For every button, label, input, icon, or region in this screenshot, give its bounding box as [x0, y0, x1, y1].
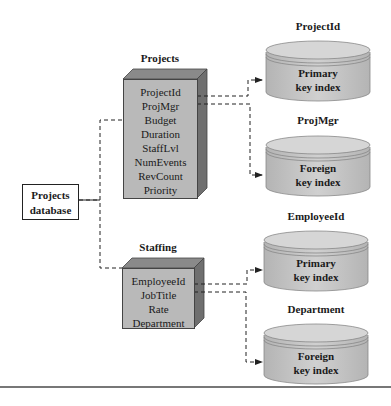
index-label-employeeid: Primary key index — [264, 256, 368, 284]
field-rate: Rate — [123, 302, 194, 316]
field-projectid: ProjectId — [124, 85, 197, 99]
index-title-projectid: ProjectId — [266, 20, 370, 32]
index-type: Foreign — [264, 349, 368, 363]
field-priority: Priority — [124, 183, 197, 197]
index-label-projmgr: Foreign key index — [266, 161, 370, 189]
database-label-line2: database — [23, 203, 78, 218]
index-type: Primary — [264, 256, 368, 270]
field-department: Department — [123, 316, 194, 330]
field-stafflvl: StaffLvl — [124, 141, 197, 155]
index-type: Primary — [266, 66, 370, 80]
projects-table: ProjectId ProjMgr Budget Duration StaffL… — [123, 79, 198, 199]
field-projmgr: ProjMgr — [124, 99, 197, 113]
field-duration: Duration — [124, 127, 197, 141]
staffing-table: EmployeeId JobTitle Rate Department — [122, 268, 195, 329]
index-title-department: Department — [264, 303, 368, 315]
field-numevents: NumEvents — [124, 155, 197, 169]
index-kind: key index — [266, 80, 370, 94]
index-label-projectid: Primary key index — [266, 66, 370, 94]
field-employeeid: EmployeeId — [123, 274, 194, 288]
database-label-line1: Projects — [23, 188, 78, 203]
index-kind: key index — [264, 270, 368, 284]
index-title-employeeid: EmployeeId — [264, 210, 368, 222]
bottom-rule — [0, 386, 391, 388]
projects-database-box: Projects database — [22, 184, 79, 220]
index-kind: key index — [264, 363, 368, 377]
index-kind: key index — [266, 175, 370, 189]
index-type: Foreign — [266, 161, 370, 175]
field-jobtitle: JobTitle — [123, 288, 194, 302]
projects-table-title: Projects — [123, 52, 197, 64]
index-label-department: Foreign key index — [264, 349, 368, 377]
field-revcount: RevCount — [124, 169, 197, 183]
staffing-table-title: Staffing — [122, 241, 194, 253]
index-title-projmgr: ProjMgr — [266, 114, 370, 126]
field-budget: Budget — [124, 113, 197, 127]
